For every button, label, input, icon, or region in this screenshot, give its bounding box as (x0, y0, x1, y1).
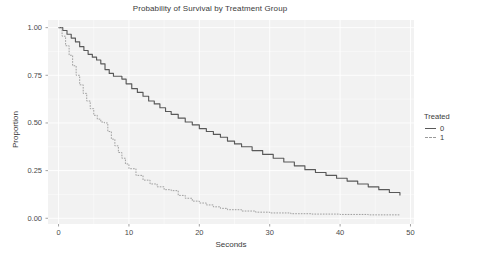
x-tick-label: 10 (119, 228, 139, 237)
x-tick-label: 0 (49, 228, 69, 237)
legend-item-0[interactable]: 0 (424, 124, 479, 133)
legend-swatch-solid-icon (424, 124, 437, 133)
y-tick-label: 0.50 (12, 118, 42, 127)
legend-items: 01 (424, 124, 479, 142)
y-axis-label: Proportion (11, 111, 20, 148)
legend-label: 0 (440, 124, 444, 133)
y-tick-label: 0.00 (12, 214, 42, 223)
y-tick-label: 0.25 (12, 166, 42, 175)
legend: Treated 01 (424, 112, 479, 142)
x-tick-label: 20 (189, 228, 209, 237)
y-tick-label: 1.00 (12, 23, 42, 32)
legend-item-1[interactable]: 1 (424, 133, 479, 142)
x-tick-label: 40 (330, 228, 350, 237)
x-tick-label: 30 (260, 228, 280, 237)
y-tick-label: 0.75 (12, 71, 42, 80)
x-tick-label: 50 (400, 228, 420, 237)
chart-root: Probability of Survival by Treatment Gro… (0, 0, 481, 265)
x-axis-label: Seconds (48, 240, 414, 249)
legend-title: Treated (424, 112, 479, 121)
legend-label: 1 (440, 133, 444, 142)
legend-swatch-dashed-icon (424, 133, 437, 142)
plot-canvas (0, 0, 481, 265)
